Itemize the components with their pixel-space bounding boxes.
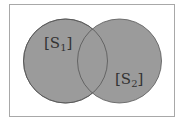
- venn-diagram: [S1] [S2]: [0, 0, 184, 124]
- set-s1-label: [S1]: [44, 34, 72, 53]
- set-s2-label: [S2]: [115, 70, 143, 89]
- set-s2-circle: [78, 19, 162, 103]
